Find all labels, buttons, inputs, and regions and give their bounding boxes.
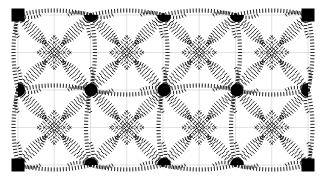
hatch-tick — [156, 161, 157, 164]
hatch-tick — [301, 86, 302, 89]
hatch-tick — [293, 91, 294, 95]
hatch-tick — [253, 166, 254, 170]
corner-top-right — [302, 9, 315, 22]
hatch-tick — [83, 86, 84, 89]
hatch-tick — [242, 165, 243, 168]
hatch-tick — [36, 10, 37, 14]
hatch-tick — [308, 158, 311, 159]
hatch-tick — [217, 10, 218, 14]
hatch-tick — [236, 83, 239, 84]
hatch-tick — [236, 74, 240, 75]
hatch-tick — [237, 34, 241, 35]
hatch-tick — [72, 166, 73, 170]
hatch-tick — [228, 11, 229, 14]
hatch-tick — [217, 85, 218, 89]
hatch-tick — [178, 10, 179, 14]
hatch-tick — [87, 97, 90, 98]
hatch-tick — [105, 91, 106, 95]
corner-top-left — [12, 9, 25, 22]
interior-3 — [231, 84, 244, 97]
hatch-tick — [253, 10, 254, 14]
hatch-tick — [148, 166, 149, 170]
hatch-tick — [105, 10, 106, 14]
hatch-tick — [228, 161, 229, 164]
hatch-tick — [75, 85, 76, 89]
hatch-tick — [158, 146, 162, 147]
corner-bottom-left — [12, 159, 25, 172]
hatch-tick — [83, 11, 84, 14]
hatch-tick — [13, 30, 17, 31]
hatch-tick — [164, 30, 168, 31]
hatch-tick — [108, 166, 109, 170]
hatch-tick — [164, 71, 168, 72]
hatch-tick — [309, 105, 313, 106]
hatch-tick — [236, 30, 240, 31]
hatch-tick — [253, 91, 254, 95]
hatch-tick — [13, 71, 17, 72]
hatch-tick — [13, 149, 17, 150]
hatch-tick — [13, 146, 17, 147]
hatch-tick — [164, 74, 168, 75]
hatch-tick — [97, 165, 98, 168]
hatch-tick — [33, 166, 34, 170]
hatch-tick — [163, 83, 166, 84]
corner-bottom-right — [302, 159, 315, 172]
hatch-tick — [181, 85, 182, 89]
hatch-tick — [237, 71, 241, 72]
hatch-tick — [75, 166, 76, 170]
hatch-tick — [170, 165, 171, 168]
hatch-tick — [228, 86, 229, 89]
hatch-tick — [91, 74, 95, 75]
hatch-tick — [309, 109, 313, 110]
hatch-tick — [75, 10, 76, 14]
hatch-tick — [108, 91, 109, 95]
hatch-tick — [250, 166, 251, 170]
hatch-tick — [220, 166, 221, 170]
hatch-tick — [91, 83, 94, 84]
hatch-tick — [309, 30, 313, 31]
hatch-tick — [33, 10, 34, 14]
hatch-tick — [92, 71, 96, 72]
hatch-tick — [220, 85, 221, 89]
hatch-tick — [13, 74, 17, 75]
hatch-tick — [232, 97, 235, 98]
hatch-tick — [159, 22, 162, 23]
hatch-tick — [301, 11, 302, 14]
hatch-tick — [178, 166, 179, 170]
hatch-tick — [290, 91, 291, 95]
hatch-tick — [309, 71, 313, 72]
hatch-tick — [230, 146, 234, 147]
hatch-tick — [164, 34, 168, 35]
interior-2 — [158, 84, 171, 97]
hatch-tick — [148, 91, 149, 95]
hatch-tick — [72, 85, 73, 89]
hatch-tick — [232, 22, 235, 23]
hatch-tick — [293, 10, 294, 14]
hatch-tick — [18, 158, 21, 159]
hatch-tick — [158, 105, 162, 106]
hatch-tick — [220, 10, 221, 14]
hatch-tick — [145, 166, 146, 170]
hatch-tick — [85, 149, 89, 150]
mesh-canvas — [0, 0, 329, 183]
hatch-tick — [148, 10, 149, 14]
hatch-tick — [181, 10, 182, 14]
hatch-tick — [304, 22, 307, 23]
hatch-tick — [14, 97, 17, 98]
hatch-tick — [230, 149, 234, 150]
hatch-tick — [250, 91, 251, 95]
hatch-tick — [18, 83, 21, 84]
hatch-tick — [36, 166, 37, 170]
hatch-tick — [230, 105, 234, 106]
hatch-tick — [250, 10, 251, 14]
hatch-tick — [36, 85, 37, 89]
hatch-tick — [13, 109, 17, 110]
hatch-tick — [72, 10, 73, 14]
hatch-tick — [13, 105, 17, 106]
hatch-tick — [230, 109, 234, 110]
hatch-tick — [13, 34, 17, 35]
hatch-tick — [290, 166, 291, 170]
hatch-tick — [309, 149, 313, 150]
hatch-tick — [33, 85, 34, 89]
hatch-tick — [308, 83, 311, 84]
